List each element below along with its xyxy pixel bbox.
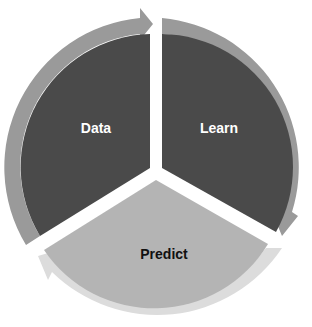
label-learn: Learn: [200, 120, 238, 136]
label-predict: Predict: [140, 246, 188, 262]
cycle-diagram: Data Learn Predict: [0, 0, 312, 327]
label-data: Data: [81, 120, 112, 136]
